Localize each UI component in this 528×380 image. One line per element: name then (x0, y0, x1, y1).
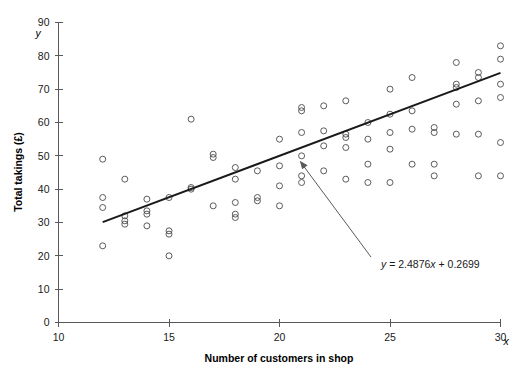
data-point (210, 203, 216, 209)
y-tick-label: 60 (38, 116, 50, 128)
annotation-arrow-head (300, 161, 308, 169)
x-tick-label: 15 (163, 331, 175, 343)
data-point (100, 205, 106, 211)
y-axis-symbol: y (34, 27, 41, 39)
x-axis-symbol: x (502, 335, 509, 347)
data-point (277, 203, 283, 209)
x-tick-label: 10 (53, 331, 65, 343)
data-point (453, 131, 459, 137)
data-point (299, 180, 305, 186)
data-point (232, 176, 238, 182)
y-tick-label: 10 (38, 283, 50, 295)
data-point (321, 128, 327, 134)
data-point (166, 253, 172, 259)
y-tick-label: 80 (38, 50, 50, 62)
data-point (277, 163, 283, 169)
data-point (321, 168, 327, 174)
scatter-plot-figure: 0102030405060708090 1015202530 y = 2.487… (0, 0, 528, 380)
data-point (343, 145, 349, 151)
data-point (387, 86, 393, 92)
data-point (365, 136, 371, 142)
x-tick-label: 25 (384, 331, 396, 343)
data-point (498, 173, 504, 179)
data-point (409, 161, 415, 167)
trend-line (103, 73, 501, 222)
data-point (431, 173, 437, 179)
data-point (498, 95, 504, 101)
data-points-group (100, 43, 504, 259)
annotation-arrow (300, 161, 371, 257)
data-point (475, 98, 481, 104)
x-axis-title: Number of customers in shop (205, 352, 354, 364)
data-point (498, 140, 504, 146)
data-point (188, 116, 194, 122)
data-point (100, 243, 106, 249)
data-point (365, 180, 371, 186)
data-point (321, 103, 327, 109)
data-point (498, 43, 504, 49)
trendline-equation-label: y = 2.4876x + 0.2699 (380, 258, 480, 270)
data-point (453, 60, 459, 66)
y-tick-label: 20 (38, 250, 50, 262)
data-point (498, 81, 504, 87)
data-point (387, 180, 393, 186)
data-point (475, 173, 481, 179)
data-point (409, 126, 415, 132)
data-point (232, 200, 238, 206)
data-point (299, 130, 305, 136)
equation-part: = 2.4876 (386, 258, 430, 270)
data-point (254, 168, 260, 174)
data-point (100, 156, 106, 162)
y-tick-label: 50 (38, 150, 50, 162)
plot-canvas: 0102030405060708090 1015202530 y = 2.487… (0, 0, 528, 380)
data-point (144, 196, 150, 202)
data-point (409, 75, 415, 81)
data-point (277, 136, 283, 142)
data-point (387, 130, 393, 136)
y-tick-label: 30 (38, 216, 50, 228)
data-point (144, 223, 150, 229)
data-point (299, 153, 305, 159)
x-tick-label: 20 (274, 331, 286, 343)
y-axis-title: Total takings (£) (12, 132, 24, 212)
data-point (498, 56, 504, 62)
data-point (100, 195, 106, 201)
data-point (387, 146, 393, 152)
data-point (365, 161, 371, 167)
data-point (453, 101, 459, 107)
data-point (431, 161, 437, 167)
annotation-arrow-shaft (304, 166, 372, 257)
data-point (475, 131, 481, 137)
y-tick-label: 40 (38, 183, 50, 195)
data-point (409, 108, 415, 114)
data-point (277, 183, 283, 189)
data-point (299, 173, 305, 179)
equation-part: + 0.2699 (436, 258, 480, 270)
data-point (232, 165, 238, 171)
data-point (321, 143, 327, 149)
data-point (122, 176, 128, 182)
data-point (343, 98, 349, 104)
y-tick-label: 0 (44, 316, 50, 328)
data-point (343, 176, 349, 182)
y-tick-label: 70 (38, 83, 50, 95)
